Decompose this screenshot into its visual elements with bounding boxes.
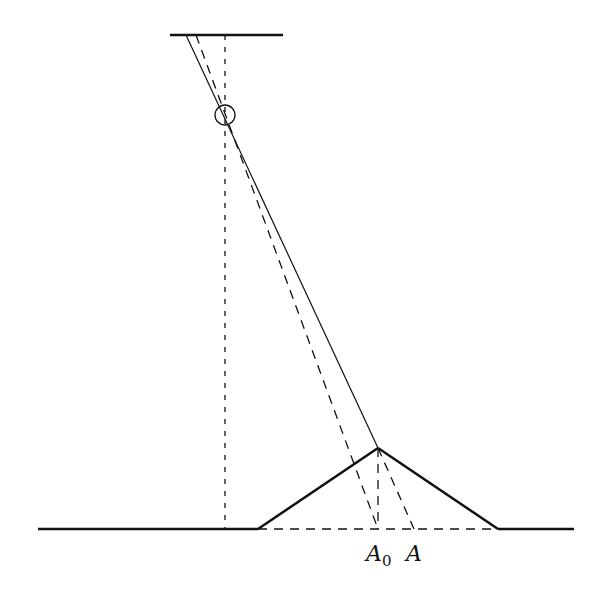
sight-line-solid xyxy=(186,35,378,448)
label-A0: A0 xyxy=(364,541,391,570)
sight-line-dashed xyxy=(196,35,378,529)
label-A: A xyxy=(404,541,422,566)
hill-left-slope xyxy=(258,448,378,529)
label-A0-main: A xyxy=(364,541,382,566)
hill-right-slope xyxy=(378,448,498,529)
label-A0-subscript: 0 xyxy=(382,552,392,570)
diagram-canvas: A0 A xyxy=(0,0,606,593)
